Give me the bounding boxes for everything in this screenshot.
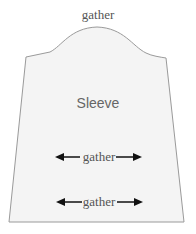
gather-mark-upper: gather xyxy=(55,150,143,164)
gather-mark-lower: gather xyxy=(55,195,143,209)
cap-gather-label: gather xyxy=(0,7,196,23)
piece-label: Sleeve xyxy=(0,95,196,111)
gather-label: gather xyxy=(55,149,143,165)
gather-label: gather xyxy=(55,194,143,210)
